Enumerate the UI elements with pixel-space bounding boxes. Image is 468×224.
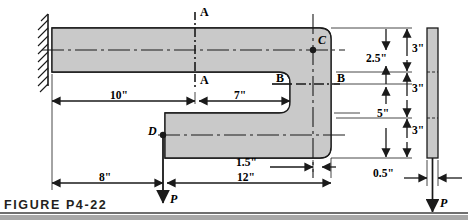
force-label-p-left: P: [170, 192, 177, 207]
dimension-label-8in: 8": [99, 171, 111, 183]
bracket-body: [52, 28, 331, 158]
figure-p4-22: A A B B C D 10" 7" 8" 12" 1.5" 0.5" 2.5"…: [0, 0, 468, 224]
dimension-label-3in-upper: 3": [412, 42, 424, 54]
wall-support: [38, 14, 48, 92]
point-marker-c: [310, 47, 316, 53]
section-label-a-top: A: [200, 5, 209, 20]
section-label-a-bottom: A: [200, 73, 209, 88]
dimension-label-2_5in: 2.5": [366, 52, 387, 64]
dimension-label-7in: 7": [234, 89, 246, 101]
force-label-p-right: P: [440, 196, 447, 211]
dimension-label-12in: 12": [237, 171, 255, 183]
bottom-rule: [0, 215, 468, 220]
point-label-d: D: [148, 124, 157, 139]
dimension-label-3in-lower: 3": [412, 124, 424, 136]
bottom-rule-dark: [0, 212, 468, 214]
point-label-c: C: [318, 33, 326, 48]
dimension-label-10in: 10": [110, 89, 128, 101]
dimension-label-0_5in: 0.5": [373, 167, 394, 179]
section-label-b-right: B: [337, 71, 345, 86]
section-label-b-left: B: [276, 71, 284, 86]
figure-caption: FIGURE P4-22: [4, 198, 107, 212]
dimension-label-1_5in: 1.5": [236, 156, 257, 168]
side-view-section: [427, 28, 438, 158]
dimension-label-3in-middle: 3": [412, 82, 424, 94]
diagram-canvas: [0, 0, 468, 224]
dimension-label-5in: 5": [377, 107, 389, 119]
